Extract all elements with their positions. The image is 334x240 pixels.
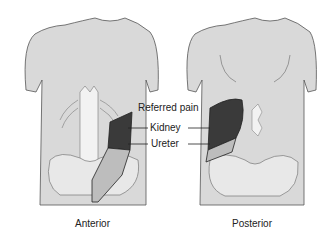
posterior-torso [187, 18, 316, 205]
posterior-caption: Posterior [232, 218, 272, 229]
referred-pain-label: Referred pain [138, 102, 199, 113]
ureter-label: Ureter [151, 138, 179, 149]
anterior-caption: Anterior [75, 218, 110, 229]
referred-pain-diagram [0, 0, 334, 240]
kidney-label: Kidney [150, 122, 181, 133]
